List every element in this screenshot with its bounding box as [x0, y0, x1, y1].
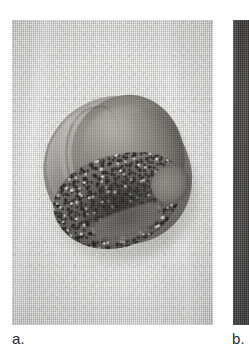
panel-b-edge-shading: [233, 20, 249, 325]
figure-root: a. b.: [0, 0, 249, 351]
panel-b-caption: b.: [232, 331, 245, 347]
panel-a-photograph: [12, 20, 213, 325]
panel-b-photograph-cropped: [233, 20, 249, 325]
photo-vignette: [12, 20, 213, 325]
panel-a-caption: a.: [12, 331, 25, 347]
